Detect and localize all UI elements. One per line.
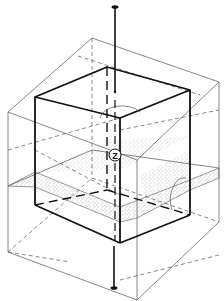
svg-text:Z: Z bbox=[112, 151, 118, 161]
axis-label-z: Z bbox=[109, 149, 121, 161]
axis-bottom-pin bbox=[111, 286, 118, 290]
cube-rotation-diagram: Z bbox=[0, 0, 224, 301]
section-plane-left bbox=[8, 172, 120, 222]
